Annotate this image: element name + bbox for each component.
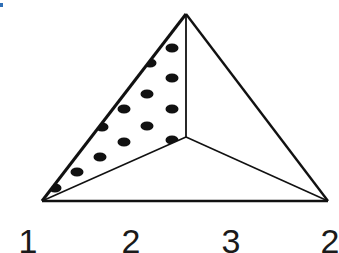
edge-apex-right bbox=[186, 14, 328, 201]
dot bbox=[166, 44, 179, 53]
dot bbox=[71, 168, 84, 177]
dot-pattern bbox=[49, 44, 179, 193]
edge-apex-left bbox=[42, 14, 186, 201]
edge-inner-right bbox=[186, 137, 328, 201]
dot bbox=[166, 105, 179, 114]
dot bbox=[118, 138, 131, 147]
dot bbox=[141, 122, 154, 131]
dot bbox=[166, 74, 179, 83]
dot bbox=[118, 105, 131, 114]
label-option-3: 3 bbox=[222, 224, 241, 253]
corner-mark bbox=[0, 3, 3, 7]
label-option-2: 2 bbox=[122, 224, 141, 253]
edge-inner-left bbox=[42, 137, 186, 201]
label-option-1: 1 bbox=[19, 224, 38, 253]
pyramid-diagram: 1 2 3 2 bbox=[0, 0, 339, 253]
pyramid-figure bbox=[0, 0, 339, 253]
dot bbox=[94, 153, 107, 162]
dot bbox=[141, 90, 154, 99]
label-option-4: 2 bbox=[321, 224, 339, 253]
